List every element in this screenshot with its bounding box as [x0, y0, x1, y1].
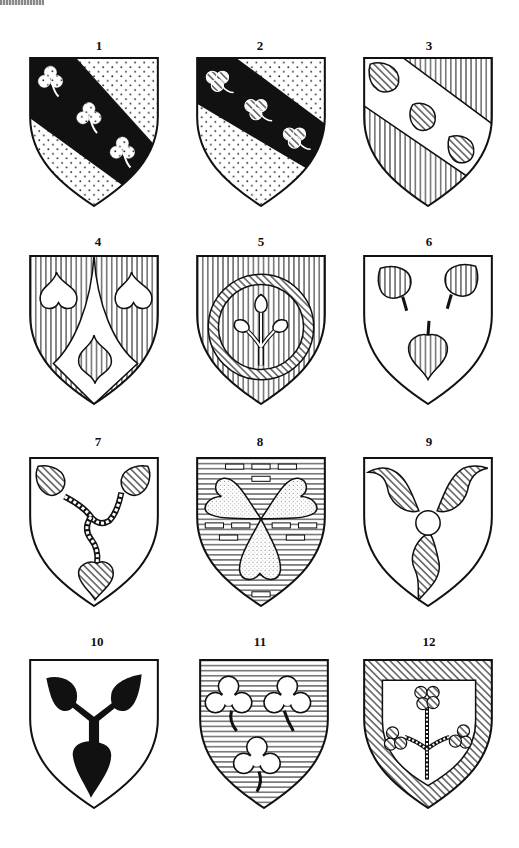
shield-number-1: 1 [79, 38, 119, 54]
shield-number-6: 6 [409, 234, 449, 250]
shield-5 [195, 254, 327, 406]
shield-number-10: 10 [77, 634, 117, 650]
shield-number-12: 12 [409, 634, 449, 650]
shield-7 [28, 456, 160, 608]
shield-10 [28, 658, 160, 810]
shield-11 [198, 658, 330, 810]
shield-1 [28, 56, 160, 208]
shield-number-8: 8 [240, 434, 280, 450]
shield-2 [195, 56, 327, 208]
shield-number-2: 2 [240, 38, 280, 54]
shield-4 [28, 254, 160, 406]
shield-9 [362, 456, 494, 608]
shield-number-4: 4 [78, 234, 118, 250]
shield-8 [195, 456, 327, 608]
shield-number-7: 7 [78, 434, 118, 450]
shield-3 [362, 56, 494, 208]
shield-number-11: 11 [240, 634, 280, 650]
shield-number-3: 3 [409, 38, 449, 54]
shield-6 [362, 254, 494, 406]
shield-12 [362, 658, 494, 810]
shield-number-9: 9 [409, 434, 449, 450]
scan-artifact [0, 0, 44, 5]
shield-number-5: 5 [241, 234, 281, 250]
